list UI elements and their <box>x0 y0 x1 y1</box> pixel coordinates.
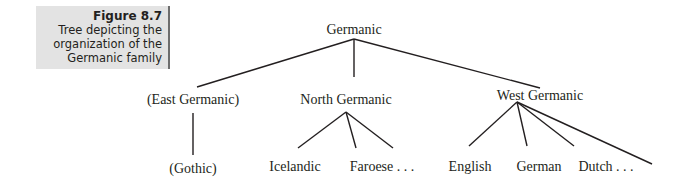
edge-north-icelandic <box>298 112 346 148</box>
node-north-germanic: North Germanic <box>300 92 391 108</box>
node-east-germanic: (East Germanic) <box>147 92 239 108</box>
edge-root-west <box>354 39 540 88</box>
node-germanic: Germanic <box>326 22 381 38</box>
node-dutch: Dutch . . . <box>578 159 633 175</box>
node-german: German <box>516 159 561 175</box>
node-icelandic: Icelandic <box>269 159 320 175</box>
edge-west-more <box>517 102 652 164</box>
edge-west-english <box>469 102 517 146</box>
node-faroese: Faroese . . . <box>350 159 415 175</box>
node-english: English <box>449 159 492 175</box>
edge-root-east <box>197 39 354 87</box>
node-gothic: (Gothic) <box>169 161 216 177</box>
node-west-germanic: West Germanic <box>497 88 583 104</box>
edge-north-a <box>346 112 356 148</box>
edge-north-faroese <box>346 112 393 148</box>
